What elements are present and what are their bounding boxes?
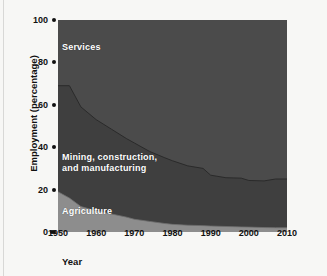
x-tick-1980: 1980 [153,228,193,238]
x-tick-label: 2000 [229,228,269,238]
x-tick-1950: 1950 [38,228,78,238]
x-tick-1960: 1960 [76,228,116,238]
x-tick-label: 1990 [191,228,231,238]
x-tick-label: 1970 [114,228,154,238]
x-axis: Year 1950196019701980199020002010 [0,0,327,276]
x-tick-label: 1950 [38,228,78,238]
x-axis-title: Year [62,256,82,267]
x-tick-1970: 1970 [114,228,154,238]
x-tick-label: 1960 [76,228,116,238]
chart-figure: Services Mining, construction, and manuf… [0,0,327,276]
x-tick-2000: 2000 [229,228,269,238]
x-tick-label: 2010 [267,228,307,238]
x-tick-1990: 1990 [191,228,231,238]
x-tick-label: 1980 [153,228,193,238]
x-tick-2010: 2010 [267,228,307,238]
